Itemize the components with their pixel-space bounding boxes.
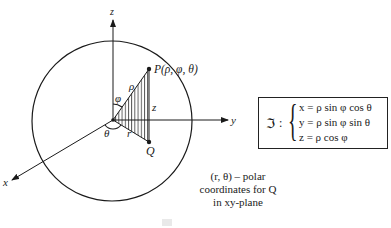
point-Q-label: Q bbox=[146, 145, 155, 157]
point-P-label: P(ρ, φ, θ) bbox=[154, 64, 198, 76]
x-axis-label: x bbox=[3, 177, 8, 188]
caption-line-3: in xy-plane bbox=[178, 196, 298, 209]
transformation-equations-box: ℑ : { x = ρ sin φ cos θ y = ρ sin φ sin … bbox=[258, 97, 388, 149]
equation-y: y = ρ sin φ sin θ bbox=[299, 116, 370, 128]
transformation-name: ℑ bbox=[266, 116, 275, 132]
equation-z: z = ρ cos φ bbox=[299, 131, 348, 143]
z-axis-label: z bbox=[110, 7, 114, 17]
phi-angle-label: φ bbox=[115, 93, 121, 104]
phi-arc bbox=[113, 104, 122, 107]
origin-point bbox=[111, 118, 115, 122]
partial-figure-label bbox=[162, 219, 172, 226]
caption-line-2: coordinates for Q bbox=[178, 183, 298, 196]
theta-angle-label: θ bbox=[104, 128, 109, 139]
z-segment-label: z bbox=[152, 102, 156, 113]
polar-caption: (r, θ) – polar coordinates for Q in xy-p… bbox=[178, 170, 298, 209]
point-P bbox=[147, 67, 151, 71]
rho-label: ρ bbox=[129, 81, 134, 92]
r-segment-label: r bbox=[127, 128, 131, 139]
x-axis bbox=[12, 120, 113, 180]
y-axis-label: y bbox=[231, 115, 236, 126]
colon: : bbox=[279, 116, 282, 131]
equation-x: x = ρ sin φ cos θ bbox=[299, 101, 372, 113]
caption-line-1: (r, θ) – polar bbox=[178, 170, 298, 183]
left-brace-icon: { bbox=[288, 99, 298, 143]
spherical-coordinates-figure: z y x P(ρ, φ, θ) Q ρ z r φ θ (r, θ) – po… bbox=[0, 0, 391, 228]
